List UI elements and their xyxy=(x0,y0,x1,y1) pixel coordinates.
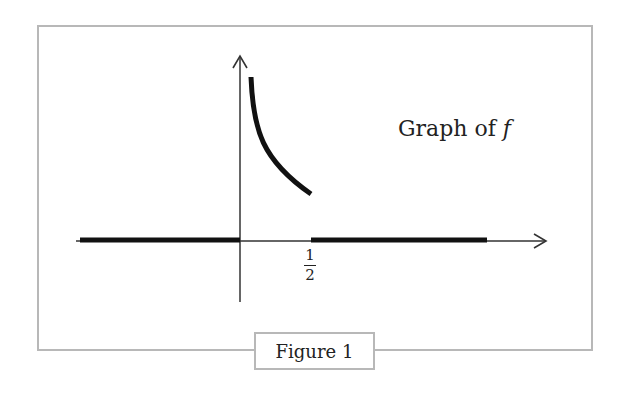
graph-label: Graph of f xyxy=(398,116,511,141)
x-tick-one-half: 1 2 xyxy=(302,248,318,283)
y-axis xyxy=(233,56,247,302)
graph-label-text: Graph of xyxy=(398,116,503,141)
graph-label-function: f xyxy=(503,116,511,141)
f-curve xyxy=(251,77,311,194)
figure-caption: Figure 1 xyxy=(254,332,375,370)
tick-numerator: 1 xyxy=(302,248,318,263)
tick-denominator: 2 xyxy=(302,268,318,283)
